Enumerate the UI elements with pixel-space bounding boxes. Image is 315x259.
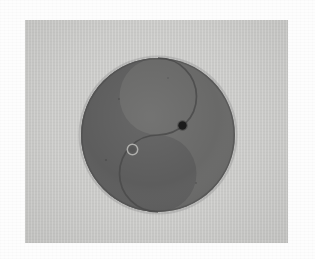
photographic-plate xyxy=(25,20,288,243)
plate-vignette-overlay xyxy=(25,20,288,243)
page-canvas xyxy=(0,0,315,259)
plate-grain-overlay xyxy=(25,20,288,243)
